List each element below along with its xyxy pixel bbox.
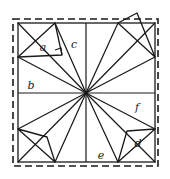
label-c: c <box>71 38 77 51</box>
label-a: a <box>40 41 47 54</box>
geometric-figure-svg: a b c d e f <box>0 0 170 179</box>
center-hub-point <box>84 91 88 95</box>
geometric-figure-container: a b c d e f <box>0 0 170 179</box>
label-d: d <box>134 137 141 150</box>
label-e: e <box>98 149 105 162</box>
label-b: b <box>27 79 34 92</box>
